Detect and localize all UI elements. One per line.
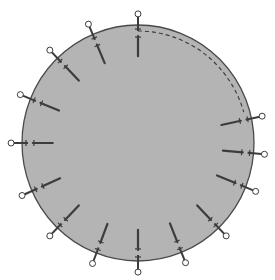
pin-head-icon [253, 188, 259, 194]
pin-head-icon [90, 261, 96, 267]
pin-head-icon [261, 151, 267, 157]
pin-head-icon [47, 47, 53, 53]
pin-head-icon [19, 193, 25, 199]
pin-head-icon [259, 113, 265, 119]
fabric-circle [22, 25, 254, 261]
pin-head-icon [135, 11, 141, 17]
pinned-circle-diagram [0, 0, 275, 280]
pin-head-icon [47, 233, 53, 239]
pin-head-icon [135, 269, 141, 275]
pin-head-icon [17, 92, 23, 98]
pin-head-icon [183, 260, 189, 266]
diagram-canvas [0, 0, 275, 280]
pin-head-icon [223, 233, 229, 239]
pin-head-icon [85, 21, 91, 27]
pin-head-icon [8, 140, 14, 146]
